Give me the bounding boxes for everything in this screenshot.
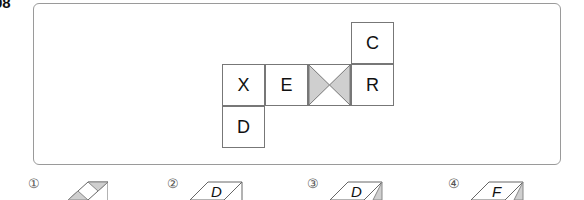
svg-text:D: D: [351, 183, 362, 200]
option-1-cube-icon[interactable]: [48, 180, 108, 200]
net-cell-d: D: [222, 106, 265, 148]
hourglass-pattern-icon: [309, 65, 350, 105]
question-number: 08: [0, 0, 11, 11]
option-1-marker[interactable]: ①: [28, 176, 40, 191]
option-3-marker[interactable]: ③: [307, 176, 319, 191]
svg-text:D: D: [211, 183, 222, 200]
option-3-cube-icon[interactable]: D: [325, 180, 385, 200]
svg-text:F: F: [492, 183, 502, 200]
net-cell-e: E: [265, 64, 308, 106]
option-4-marker[interactable]: ④: [448, 176, 460, 191]
option-2-marker[interactable]: ②: [167, 176, 179, 191]
net-cell-r: R: [351, 64, 394, 106]
net-cell-x: X: [222, 64, 265, 106]
net-cell-c: C: [351, 22, 394, 64]
option-2-cube-icon[interactable]: D: [185, 180, 245, 200]
net-cell-shaded: [308, 64, 351, 106]
option-4-cube-icon[interactable]: F: [466, 180, 526, 200]
